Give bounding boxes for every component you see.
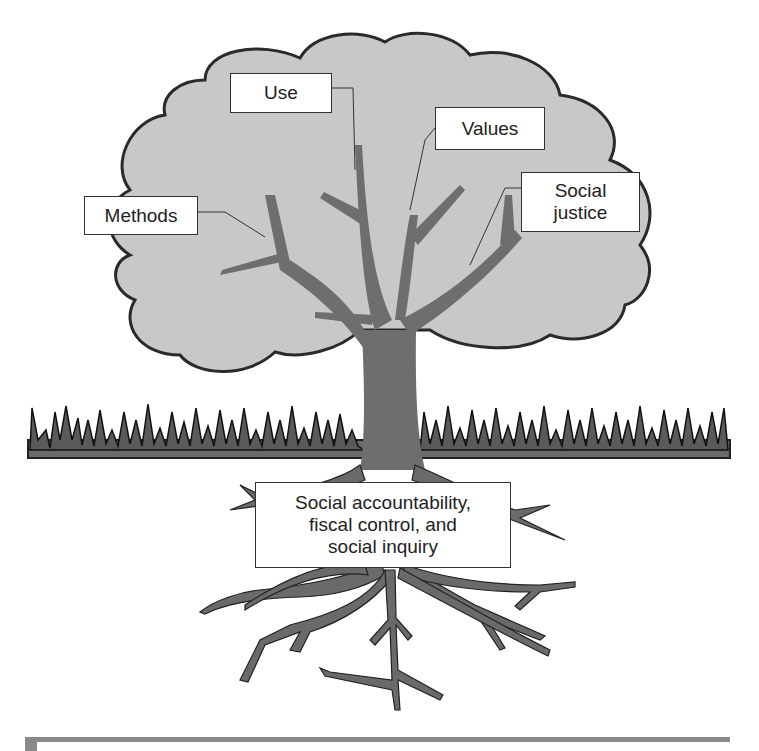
label-use: Use — [230, 73, 332, 113]
label-roots-line1: Social accountability, — [295, 492, 471, 514]
grass — [28, 330, 730, 470]
label-methods: Methods — [84, 196, 198, 235]
label-social-justice: Social justice — [521, 172, 640, 232]
label-roots-line3: social inquiry — [328, 536, 438, 558]
label-roots-line2: fiscal control, and — [309, 514, 457, 536]
label-social-justice-line1: Social — [555, 180, 607, 202]
label-values: Values — [435, 107, 545, 150]
label-social-justice-line2: justice — [554, 202, 608, 224]
label-values-text: Values — [462, 118, 519, 140]
bottom-divider — [25, 737, 730, 742]
label-methods-text: Methods — [105, 205, 178, 227]
label-use-text: Use — [264, 82, 298, 104]
bottom-divider-stub — [25, 737, 37, 751]
evaluation-theory-tree — [0, 0, 759, 751]
label-roots: Social accountability, fiscal control, a… — [255, 482, 511, 568]
